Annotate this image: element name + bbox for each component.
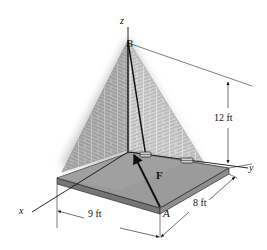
cable-bracket-right (181, 158, 193, 163)
x-axis-label: x (19, 206, 23, 216)
dimension-width-y: 8 ft (193, 198, 207, 208)
z-axis-label: z (120, 16, 124, 26)
dimension-height: 12 ft (214, 113, 233, 123)
figure-canvas (0, 0, 267, 250)
dim-line-9ft-left (58, 211, 84, 218)
force-label: F (156, 170, 163, 181)
cable-bracket-left (140, 152, 151, 157)
dim-line-9ft-right (120, 228, 159, 237)
y-axis-label: y (249, 163, 253, 173)
dimension-width-x: 9 ft (88, 209, 102, 219)
statics-figure: z B y x A F 12 ft 9 ft 8 ft (0, 0, 267, 250)
ext-line-8ft-far (229, 174, 237, 178)
point-A-label: A (163, 208, 170, 219)
point-B-label: B (126, 38, 133, 49)
